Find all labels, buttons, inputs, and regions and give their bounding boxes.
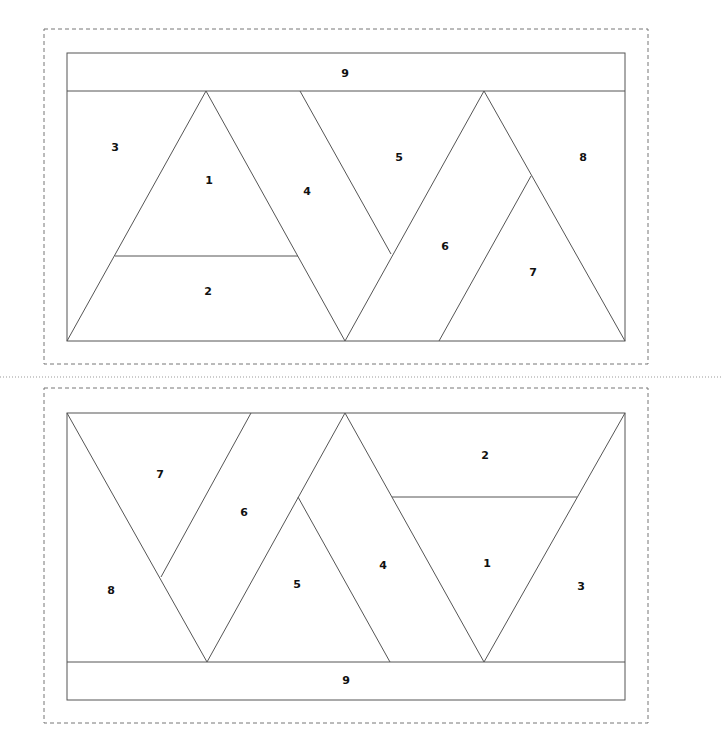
bottom-piece-6-7-seam [161,413,251,577]
bottom-piece-4-5-seam [298,497,390,662]
quilt-pattern-diagram: 9 3 1 4 2 5 8 6 7 7 6 2 8 5 4 1 3 9 [0,0,723,751]
bottom-block [44,388,648,723]
piece-label: 9 [341,67,349,80]
top-piece-6-7-seam [439,176,531,341]
top-block-outline [67,53,625,341]
bottom-triangle-b-right-side [484,413,625,662]
top-triangle-a-right-side [206,91,345,341]
piece-label: 7 [529,266,537,279]
piece-label: 5 [293,578,301,591]
piece-label: 1 [483,557,491,570]
bottom-triangle-a-left-side [67,413,207,662]
piece-label: 8 [579,151,587,164]
piece-label: 4 [303,185,311,198]
piece-label: 3 [111,141,119,154]
piece-label: 3 [577,580,585,593]
top-triangle-a-left-side [67,91,206,341]
bottom-triangle-a-right-side [207,413,345,662]
piece-label: 1 [205,174,213,187]
top-triangle-b-right-side [484,91,625,341]
piece-label: 4 [379,559,387,572]
piece-label: 9 [342,674,350,687]
piece-label: 7 [156,468,164,481]
bottom-labels: 7 6 2 8 5 4 1 3 9 [107,449,585,687]
piece-label: 2 [481,449,489,462]
top-triangle-b-left-side [345,91,484,341]
top-piece-4-5-seam [300,91,391,254]
top-labels: 9 3 1 4 2 5 8 6 7 [111,67,587,298]
bottom-block-outline [67,413,625,700]
piece-label: 6 [240,506,248,519]
piece-label: 5 [395,151,403,164]
bottom-triangle-b-left-side [345,413,484,662]
piece-label: 6 [441,240,449,253]
bottom-seam-allowance-border [44,388,648,723]
piece-label: 8 [107,584,115,597]
piece-label: 2 [204,285,212,298]
